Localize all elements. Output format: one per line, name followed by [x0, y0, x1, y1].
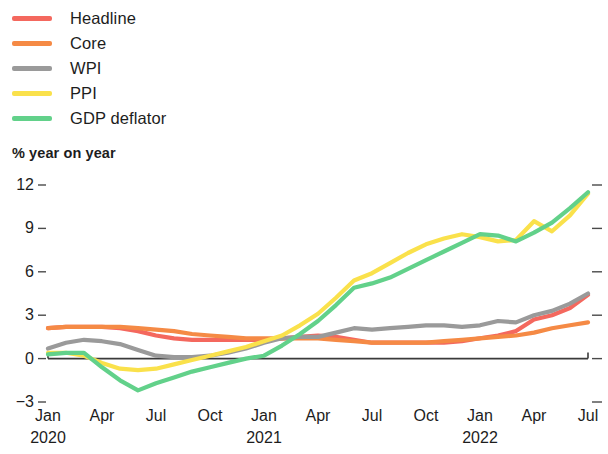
x-tick-label: Apr	[90, 407, 116, 424]
right-axis-ticks	[592, 185, 602, 402]
y-tick-label: 3	[25, 306, 34, 323]
y-tick-label: 12	[16, 176, 34, 193]
x-tick-label: Jul	[146, 407, 166, 424]
zero-line-group	[48, 353, 588, 359]
y-tick-label: −3	[16, 393, 34, 410]
x-tick-label: Jan	[467, 407, 493, 424]
x-tick-label: Jan	[35, 407, 61, 424]
x-tick-label: Jul	[362, 407, 382, 424]
series-line-ppi	[48, 194, 588, 371]
x-tick-label: Apr	[522, 407, 548, 424]
x-tick-label: Oct	[414, 407, 439, 424]
y-tick-label: 6	[25, 263, 34, 280]
y-tick-label: 0	[25, 350, 34, 367]
x-tick-year-label: 2020	[30, 429, 66, 446]
series-line-wpi	[48, 294, 588, 358]
x-tick-year-label: 2021	[246, 429, 282, 446]
series-line-gdp-deflator	[48, 192, 588, 390]
x-tick-label: Apr	[306, 407, 332, 424]
chart-plot-area: 129630−3 Jan2020AprJulOctJan2021AprJulOc…	[0, 0, 608, 454]
x-tick-year-label: 2022	[462, 429, 498, 446]
x-tick-label: Jan	[251, 407, 277, 424]
line-chart: 129630−3 Jan2020AprJulOctJan2021AprJulOc…	[0, 0, 608, 454]
y-tick-label: 9	[25, 219, 34, 236]
series-group	[48, 192, 588, 390]
x-axis-labels: Jan2020AprJulOctJan2021AprJulOctJan2022A…	[30, 407, 598, 446]
x-tick-label: Oct	[198, 407, 223, 424]
y-axis-ticks: 129630−3	[16, 176, 46, 410]
x-tick-label: Jul	[578, 407, 598, 424]
